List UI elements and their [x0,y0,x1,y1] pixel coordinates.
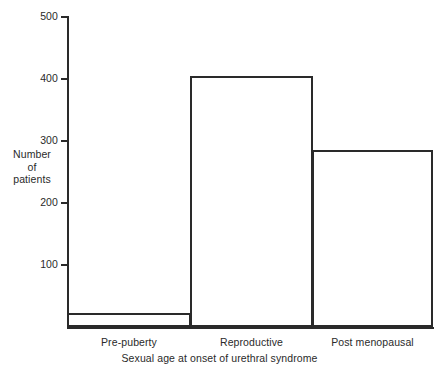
bar-chart: 500 400 300 200 100 Pre-puberty Reproduc… [0,0,439,372]
y-axis-title: Number of patients [0,148,64,186]
y-tick-500 [61,16,69,18]
category-label-pre-puberty: Pre-puberty [67,336,191,348]
y-tick-400 [61,78,69,80]
y-tick-label-300: 300 [20,135,58,145]
x-axis-line [67,327,434,329]
y-axis-title-line-2: of [0,161,64,174]
y-tick-label-200: 200 [20,197,58,207]
y-tick-label-500: 500 [20,11,58,21]
y-axis-title-line-1: Number [0,148,64,161]
y-tick-300 [61,140,69,142]
x-axis-title: Sexual age at onset of urethral syndrome [0,352,439,364]
y-axis-title-line-3: patients [0,173,64,186]
y-tick-200 [61,202,69,204]
category-label-post-menopausal: Post menopausal [312,336,433,348]
bar-reproductive [190,76,313,327]
bar-post-menopausal [312,150,433,327]
y-tick-label-100: 100 [20,259,58,269]
y-axis-line [67,16,69,328]
bar-pre-puberty [67,313,191,327]
category-label-reproductive: Reproductive [190,336,313,348]
y-tick-label-400: 400 [20,73,58,83]
y-tick-100 [61,264,69,266]
